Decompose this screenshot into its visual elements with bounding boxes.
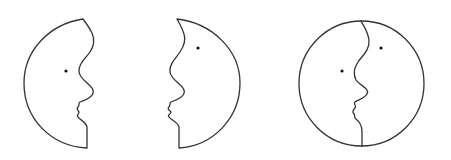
combined-circle-faces [299,21,424,146]
left-face-outline [24,19,94,148]
right-profile-face [168,19,240,148]
combined-right-eye [379,46,382,49]
left-profile-face [24,19,94,148]
figure-canvas [0,0,451,160]
faces-illustration [0,0,451,160]
combined-left-eye [340,69,343,72]
left-face-eye [64,69,67,72]
combined-profile-line [353,21,369,146]
right-face-outline [168,19,240,148]
right-face-eye [196,46,199,49]
